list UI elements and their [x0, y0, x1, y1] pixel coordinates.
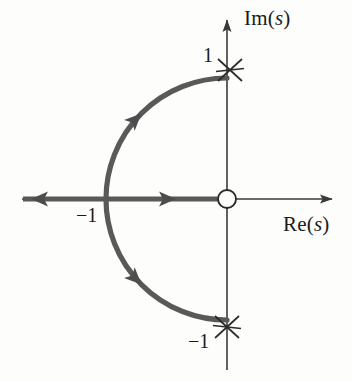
real-axis-open-paren: ( [307, 212, 314, 236]
imaginary-axis-label: Im(s) [244, 6, 291, 31]
zero-marker-origin-icon [218, 190, 236, 208]
tick-label-imag-negative-one: −1 [188, 330, 209, 353]
axis-group [22, 20, 332, 370]
imaginary-axis-open-paren: ( [268, 6, 275, 30]
imaginary-axis-close-paren: ) [283, 6, 290, 30]
root-locus-figure: Im(s) Re(s) 1 −1 −1 [0, 0, 352, 381]
locus-group [23, 78, 227, 320]
root-locus-plot [0, 0, 352, 381]
real-axis-label: Re(s) [283, 212, 330, 237]
imaginary-axis-label-text: Im [244, 6, 268, 30]
real-axis-close-paren: ) [322, 212, 329, 236]
tick-label-imag-positive-one: 1 [203, 44, 213, 67]
tick-label-real-negative-one: −1 [76, 204, 97, 227]
real-axis-label-text: Re [283, 212, 307, 236]
